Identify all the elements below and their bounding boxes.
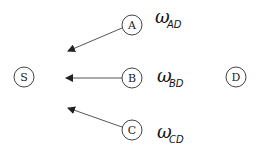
svg-text:D: D (232, 71, 241, 84)
node-c: C (122, 120, 142, 140)
node-a: A (122, 15, 142, 35)
svg-text:AD: AD (166, 19, 182, 30)
weight-label-bd: ω BD (157, 65, 184, 89)
svg-text:B: B (128, 72, 136, 85)
node-b: B (122, 68, 142, 88)
node-s: S (14, 67, 34, 87)
weight-label-cd: ω CD (157, 121, 184, 145)
svg-text:S: S (20, 71, 28, 84)
svg-text:BD: BD (169, 78, 184, 89)
edge-c-arrow (68, 108, 122, 127)
svg-text:C: C (128, 124, 136, 137)
weight-label-ad: ω AD (155, 6, 182, 30)
svg-text:A: A (127, 19, 137, 32)
svg-text:CD: CD (169, 134, 184, 145)
weighted-graph-diagram: S A B C D ω AD ω BD ω CD (0, 0, 264, 155)
node-d: D (226, 67, 246, 87)
edge-a-arrow (68, 28, 122, 51)
